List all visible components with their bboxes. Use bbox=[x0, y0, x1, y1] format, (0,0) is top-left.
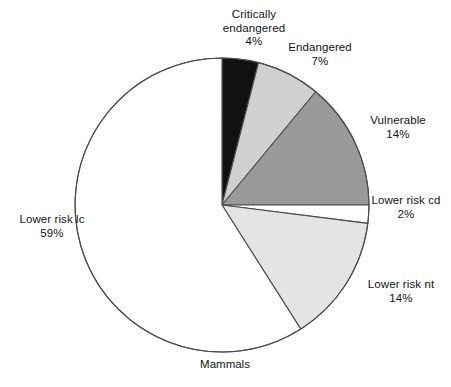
slice-label-name-line1: Critically bbox=[202, 8, 306, 22]
slice-label-value: 14% bbox=[352, 128, 444, 142]
slice-label-value: 59% bbox=[6, 227, 98, 241]
chart-caption: Mammals bbox=[175, 358, 275, 372]
slice-label-value: 2% bbox=[362, 208, 450, 222]
slice-label-value: 14% bbox=[356, 292, 446, 306]
slice-label-vulnerable: Vulnerable 14% bbox=[352, 114, 444, 141]
slice-label-name-line2: endangered bbox=[202, 22, 306, 36]
slice-label-value: 7% bbox=[272, 55, 368, 69]
pie-chart-figure: Critically endangered 4% Endangered 7% V… bbox=[0, 0, 451, 387]
slice-label-name: Lower risk nt bbox=[356, 278, 446, 292]
slice-label-lower-risk-nt: Lower risk nt 14% bbox=[356, 278, 446, 305]
pie-slice-group bbox=[75, 58, 369, 352]
slice-label-name: Lower risk cd bbox=[362, 194, 450, 208]
slice-label-name: Vulnerable bbox=[352, 114, 444, 128]
slice-label-name: Endangered bbox=[272, 41, 368, 55]
slice-label-endangered: Endangered 7% bbox=[272, 41, 368, 68]
slice-label-lower-risk-cd: Lower risk cd 2% bbox=[362, 194, 450, 221]
slice-label-name: Lower risk lc bbox=[6, 213, 98, 227]
slice-label-lower-risk-lc: Lower risk lc 59% bbox=[6, 213, 98, 240]
